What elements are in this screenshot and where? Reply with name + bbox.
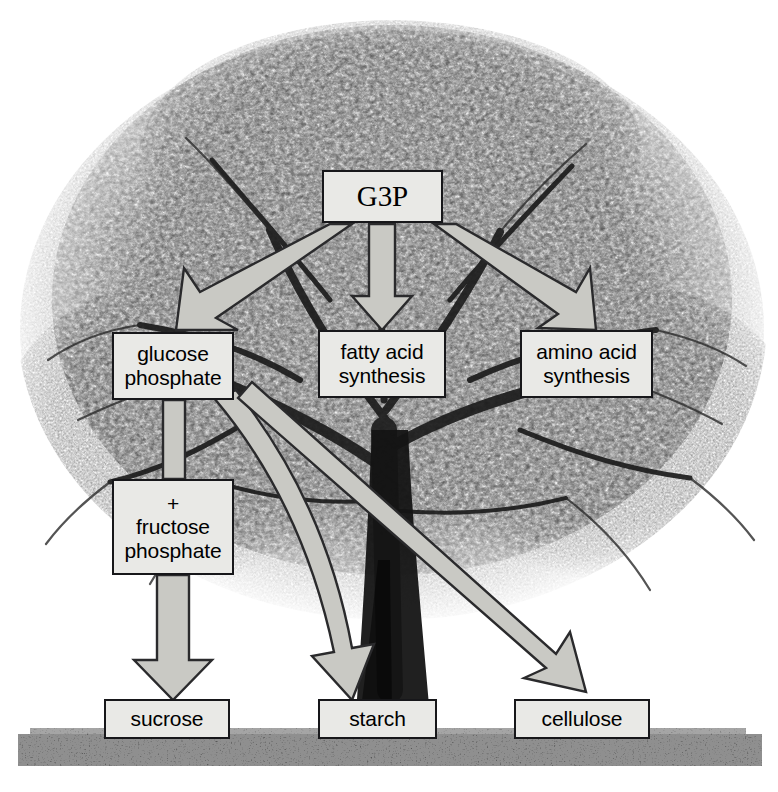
node-sucrose: sucrose (104, 699, 230, 739)
node-sucrose-line-0: sucrose (131, 707, 204, 731)
node-cellulose: cellulose (514, 699, 650, 739)
node-fructose-line-1: fructose (136, 515, 210, 539)
node-starch-line-0: starch (349, 707, 406, 731)
diagram-canvas: G3P glucose phosphate fatty acid synthes… (0, 0, 778, 792)
node-fatty-line-0: fatty acid (340, 340, 423, 364)
node-fatty-line-1: synthesis (339, 364, 426, 388)
node-amino-line-1: synthesis (543, 364, 630, 388)
arrow-g3p-to-fatty (352, 224, 412, 330)
node-amino-acid-synthesis: amino acid synthesis (520, 330, 653, 398)
node-g3p-line-0: G3P (357, 180, 408, 212)
node-cellulose-line-0: cellulose (542, 707, 623, 731)
node-starch: starch (318, 699, 437, 739)
node-fructose-line-0: + (167, 492, 179, 516)
node-amino-line-0: amino acid (536, 340, 637, 364)
arrow-g3p-to-glucose (176, 224, 352, 330)
node-fructose-line-2: phosphate (124, 539, 221, 563)
connector-glucose-to-fructose (163, 400, 185, 479)
node-glucose-line-1: phosphate (124, 366, 221, 390)
node-fructose-phosphate: + fructose phosphate (112, 479, 234, 575)
node-fatty-acid-synthesis: fatty acid synthesis (318, 330, 446, 398)
node-g3p: G3P (322, 170, 443, 223)
arrow-fructose-to-sucrose (134, 575, 212, 700)
arrow-glucose-to-cellulose (238, 382, 586, 692)
node-glucose-line-0: glucose (137, 342, 209, 366)
node-glucose-phosphate: glucose phosphate (112, 332, 234, 400)
arrow-g3p-to-amino (434, 224, 596, 330)
